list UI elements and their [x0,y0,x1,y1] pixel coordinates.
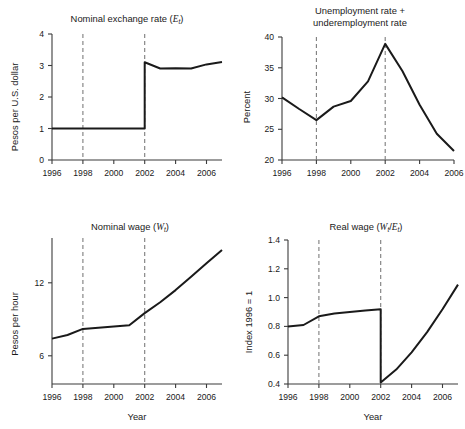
panel-title-exchange-rate: Nominal exchange rate (Et) [71,13,184,25]
svg-text:1998: 1998 [73,168,92,178]
svg-text:2004: 2004 [166,168,185,178]
svg-text:25: 25 [264,124,274,134]
svg-text:2006: 2006 [197,168,216,178]
y-ticks-nominal-wage: 6 12 [34,278,52,361]
y-ticks-unemployment: 20 25 30 35 40 [264,32,282,165]
panel-real-wage: Real wage (Wt/Et) Index 1996 = 1 0.4 0.6… [232,212,465,429]
svg-text:40: 40 [264,32,274,42]
series-real-wage [288,285,458,383]
svg-text:2002: 2002 [135,392,154,402]
panel-unemployment-rate: Unemployment rate + underemployment rate… [232,0,465,212]
chart-nominal-exchange-rate: Nominal exchange rate (Et) Pesos per U.S… [0,0,232,212]
svg-text:2002: 2002 [135,168,154,178]
svg-text:1996: 1996 [278,392,297,402]
svg-text:1.2: 1.2 [268,264,280,274]
svg-text:3: 3 [39,61,44,71]
y-axis-label-unemployment: Percent [241,90,252,123]
svg-text:2000: 2000 [341,168,360,178]
svg-text:1.4: 1.4 [268,235,280,245]
svg-text:2004: 2004 [402,392,421,402]
svg-text:2004: 2004 [166,392,185,402]
panel-title-unemployment-line2: underemployment rate [313,17,407,28]
series-unemployment [282,44,454,151]
series-exchange-rate [52,62,222,128]
svg-text:2004: 2004 [410,168,429,178]
svg-text:2002: 2002 [376,168,395,178]
y-axis-label-real-wage: Index 1996 = 1 [243,291,254,353]
svg-text:2006: 2006 [444,168,463,178]
svg-text:1996: 1996 [42,392,61,402]
panel-title-real-wage: Real wage (Wt/Et) [330,221,403,233]
chart-nominal-wage: Nominal wage (Wt) Pesos per hour 6 12 19… [0,212,232,429]
svg-text:30: 30 [264,94,274,104]
svg-text:6: 6 [39,351,44,361]
panel-title-nominal-wage: Nominal wage (Wt) [91,221,169,233]
chart-unemployment-rate: Unemployment rate + underemployment rate… [232,0,465,212]
y-ticks-real-wage: 0.4 0.6 0.8 1.0 1.2 1.4 [268,235,288,389]
svg-text:4: 4 [39,29,44,39]
svg-text:2000: 2000 [104,392,123,402]
x-axis-label-real-wage: Year [364,411,383,422]
panel-nominal-exchange-rate: Nominal exchange rate (Et) Pesos per U.S… [0,0,232,212]
panel-title-unemployment-line1: Unemployment rate + [315,5,405,16]
svg-text:1996: 1996 [42,168,61,178]
x-ticks-nominal-wage: 1996 1998 2000 2002 2004 2006 [42,384,216,402]
svg-text:2006: 2006 [433,392,452,402]
svg-text:0.8: 0.8 [268,321,280,331]
x-ticks-real-wage: 1996 1998 2000 2002 2004 2006 [278,384,452,402]
x-ticks-exchange-rate: 1996 1998 2000 2002 2004 2006 [42,160,216,178]
svg-text:2006: 2006 [197,392,216,402]
svg-text:0.6: 0.6 [268,350,280,360]
svg-text:2002: 2002 [371,392,390,402]
chart-real-wage: Real wage (Wt/Et) Index 1996 = 1 0.4 0.6… [232,212,465,429]
svg-text:1: 1 [39,124,44,134]
y-ticks-exchange-rate: 0 1 2 3 4 [39,29,52,165]
svg-text:1998: 1998 [309,392,328,402]
svg-text:0: 0 [39,155,44,165]
svg-text:2: 2 [39,92,44,102]
svg-text:1998: 1998 [307,168,326,178]
svg-text:0.4: 0.4 [268,379,280,389]
svg-text:35: 35 [264,63,274,73]
y-axis-label-nominal-wage: Pesos per hour [9,292,20,356]
x-ticks-unemployment: 1996 1998 2000 2002 2004 2006 [272,160,463,178]
figure-panel-grid: Nominal exchange rate (Et) Pesos per U.S… [0,0,465,429]
panel-nominal-wage: Nominal wage (Wt) Pesos per hour 6 12 19… [0,212,232,429]
svg-text:2000: 2000 [104,168,123,178]
svg-text:20: 20 [264,155,274,165]
svg-text:2000: 2000 [340,392,359,402]
svg-text:1996: 1996 [272,168,291,178]
x-axis-label-nominal-wage: Year [128,411,147,422]
series-nominal-wage [52,250,222,339]
svg-text:1.0: 1.0 [268,293,280,303]
svg-text:1998: 1998 [73,392,92,402]
y-axis-label-exchange-rate: Pesos per U.S. dollar [9,63,20,152]
svg-text:12: 12 [34,278,44,288]
